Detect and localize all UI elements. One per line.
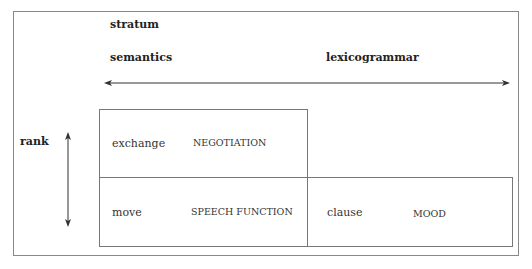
cell-move: move SPEECH FUNCTION <box>99 177 308 247</box>
unit-move: move <box>112 206 142 219</box>
system-speech-function: SPEECH FUNCTION <box>191 206 293 217</box>
cell-clause: clause MOOD <box>307 177 513 247</box>
system-mood: MOOD <box>413 208 446 219</box>
system-negotiation: NEGOTIATION <box>193 137 266 148</box>
stratum-arrow <box>104 80 510 86</box>
cell-exchange: exchange NEGOTIATION <box>99 109 308 178</box>
unit-clause: clause <box>327 206 362 219</box>
unit-exchange: exchange <box>112 137 165 150</box>
rank-arrow <box>65 132 71 227</box>
